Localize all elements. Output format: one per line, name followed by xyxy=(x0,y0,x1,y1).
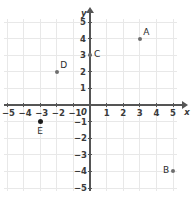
data-point-e xyxy=(38,119,43,124)
data-point-label-d: D xyxy=(60,61,67,70)
data-point-label-b: B xyxy=(163,166,169,175)
y-axis-tick xyxy=(88,154,92,155)
x-axis-tick xyxy=(7,103,8,107)
y-axis-tick-label: 4 xyxy=(74,35,86,44)
origin-label: 0 xyxy=(81,108,87,117)
y-axis-tick-label: −4 xyxy=(74,167,86,176)
data-point-d xyxy=(55,70,59,74)
x-axis-tick-label: 1 xyxy=(102,109,112,118)
y-axis-tick-label: −5 xyxy=(74,184,86,193)
y-axis-tick xyxy=(88,171,92,172)
coordinate-plane: −5−4−3−2−11234554321−1−2−3−4−50xyABCDE xyxy=(0,0,192,200)
y-axis-tick xyxy=(88,22,92,23)
y-axis-tick-label: 3 xyxy=(74,51,86,60)
y-axis-tick-label: 2 xyxy=(74,68,86,77)
x-axis-tick-label: −4 xyxy=(19,109,29,118)
x-axis-tick-label: 3 xyxy=(135,109,145,118)
x-axis-tick-label: −5 xyxy=(2,109,12,118)
y-axis-tick xyxy=(88,188,92,189)
data-point-label-c: C xyxy=(94,50,100,59)
y-axis-tick xyxy=(88,71,92,72)
x-axis-tick-label: −2 xyxy=(52,109,62,118)
data-point-a xyxy=(138,37,142,41)
y-axis-tick xyxy=(88,88,92,89)
x-axis-tick-label: 2 xyxy=(118,109,128,118)
x-axis-tick xyxy=(123,103,124,107)
x-axis-tick xyxy=(173,103,174,107)
x-axis-tick xyxy=(156,103,157,107)
x-axis-tick xyxy=(73,103,74,107)
x-axis-tick xyxy=(40,103,41,107)
y-axis-name: y xyxy=(81,9,87,18)
data-point-b xyxy=(171,169,175,173)
data-point-label-e: E xyxy=(37,127,43,136)
y-axis-tick xyxy=(88,138,92,139)
x-axis-tick xyxy=(56,103,57,107)
x-axis-tick-label: 4 xyxy=(151,109,161,118)
y-axis-tick-label: 1 xyxy=(74,84,86,93)
data-point-label-a: A xyxy=(143,28,149,37)
y-axis-tick-label: −3 xyxy=(74,151,86,160)
y-axis-tick-label: −2 xyxy=(74,134,86,143)
x-axis-tick-label: 5 xyxy=(168,109,178,118)
data-point-c xyxy=(88,53,92,57)
y-axis-tick-label: 5 xyxy=(74,18,86,27)
y-axis xyxy=(89,13,90,191)
x-axis-tick xyxy=(139,103,140,107)
y-axis-arrowhead xyxy=(86,7,94,13)
y-axis-tick-label: −1 xyxy=(74,118,86,127)
x-axis-tick-label: −3 xyxy=(35,109,45,118)
x-axis-name: x xyxy=(184,108,189,117)
y-axis-tick xyxy=(88,38,92,39)
x-axis-tick xyxy=(106,103,107,107)
x-axis-tick xyxy=(23,103,24,107)
y-axis-tick xyxy=(88,121,92,122)
